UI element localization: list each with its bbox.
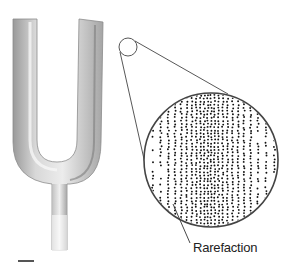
tuning-fork: [13, 19, 103, 251]
magnified-view: [142, 90, 278, 231]
scale-mark: [18, 260, 34, 262]
small-magnify-circle: [119, 38, 137, 56]
diagram-canvas: [0, 0, 297, 264]
rarefaction-label: Rarefaction: [193, 240, 257, 255]
